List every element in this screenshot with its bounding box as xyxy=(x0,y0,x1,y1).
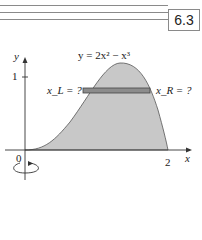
right-endpoint-label: x_R = ? xyxy=(156,84,192,96)
x-axis-label: x xyxy=(185,152,190,164)
curve-equation-label: y = 2x² − x³ xyxy=(78,49,130,61)
shaded-region xyxy=(25,63,168,150)
rotation-arrow-icon xyxy=(14,163,39,173)
x-tick-label-2: 2 xyxy=(165,156,171,168)
y-tick-label-1: 1 xyxy=(12,70,18,82)
horizontal-strip xyxy=(83,88,150,93)
y-axis-arrow-icon xyxy=(23,57,28,63)
left-endpoint-label: x_L = ? xyxy=(47,84,82,96)
y-axis-label: y xyxy=(14,50,19,62)
x-tick-label-0: 0 xyxy=(16,152,22,164)
